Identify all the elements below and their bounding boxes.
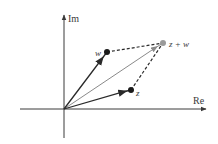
imag-axis-label: Im <box>68 13 79 24</box>
point-sum <box>160 40 166 46</box>
dashed-w-to-sum <box>107 43 163 52</box>
w-vector <box>64 52 107 109</box>
label-z: z <box>135 88 140 98</box>
label-w: w <box>95 48 101 58</box>
real-axis-label: Re <box>193 95 205 106</box>
z-vector <box>64 90 131 109</box>
dashed-z-to-sum <box>131 43 163 90</box>
complex-addition-diagram: Im Re w z z + w <box>0 0 218 144</box>
point-w <box>104 49 110 55</box>
point-z <box>128 87 134 93</box>
sum-vector <box>64 43 163 109</box>
label-sum: z + w <box>168 39 189 49</box>
